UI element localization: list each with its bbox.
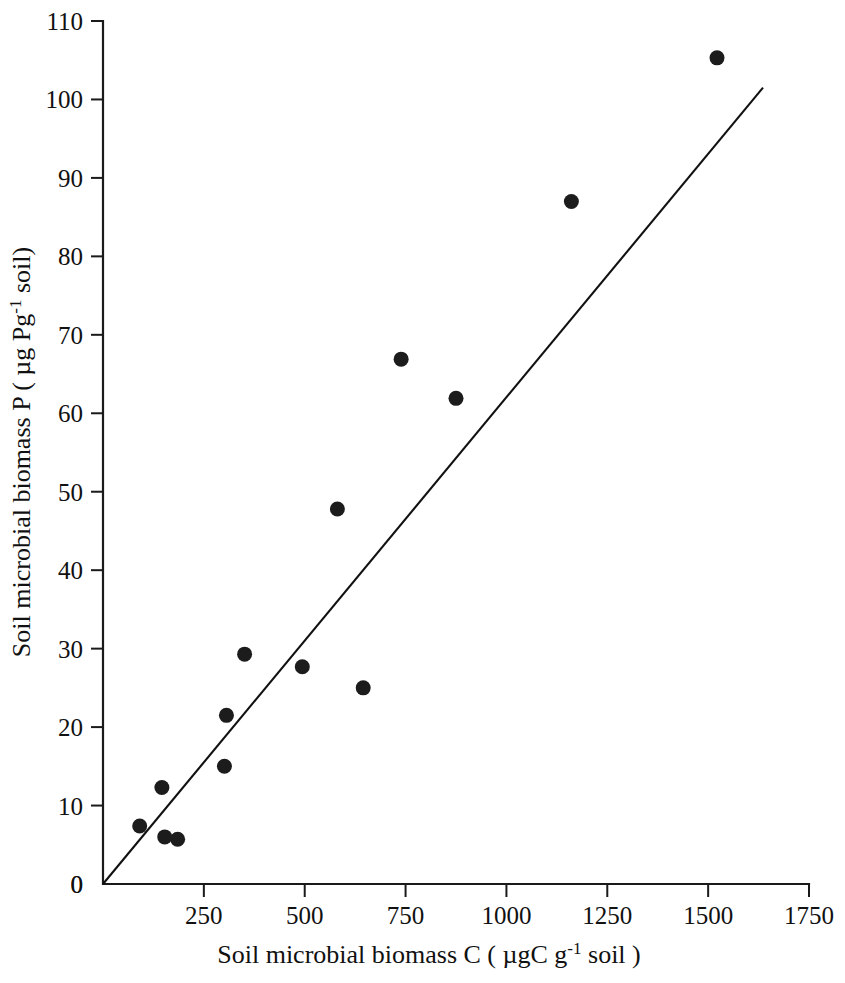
x-axis-title: Soil microbial biomass C ( µgC g-1 soil …: [217, 939, 641, 969]
x-tick-label-1750: 1750: [784, 902, 834, 929]
axis-title-text: Soil microbial biomass P ( µg Pg: [7, 314, 36, 657]
regression-line: [103, 88, 763, 884]
y-tick-label-10: 10: [58, 793, 83, 820]
scatter-plot: 0102030405060708090100110250500750100012…: [0, 0, 845, 983]
data-point-0: [132, 818, 147, 833]
data-point-4: [217, 759, 232, 774]
axis-spines: [103, 21, 809, 884]
data-point-3: [170, 832, 185, 847]
axis-title-text-tail: soil): [7, 247, 36, 300]
x-tick-label-500: 500: [286, 902, 324, 929]
x-tick-label-250: 250: [185, 902, 223, 929]
data-points-group: [132, 50, 724, 846]
axis-title-superscript: -1: [567, 939, 581, 958]
axis-title-superscript: -1: [6, 300, 25, 314]
data-point-1: [154, 780, 169, 795]
regression-line-group: [103, 88, 763, 884]
origin-tick-label-0: 0: [71, 871, 84, 898]
data-point-12: [564, 194, 579, 209]
x-tick-label-750: 750: [387, 902, 425, 929]
figure-container: 0102030405060708090100110250500750100012…: [0, 0, 845, 983]
y-tick-label-60: 60: [58, 400, 83, 427]
data-point-10: [394, 352, 409, 367]
y-axis-title: Soil microbial biomass P ( µg Pg-1 soil): [6, 247, 36, 657]
y-tick-label-70: 70: [58, 322, 83, 349]
y-tick-label-90: 90: [58, 165, 83, 192]
data-point-2: [157, 829, 172, 844]
data-point-11: [449, 391, 464, 406]
data-point-7: [295, 659, 310, 674]
y-tick-label-50: 50: [58, 479, 83, 506]
axis-title-text-tail: soil ): [582, 940, 641, 969]
data-point-9: [356, 680, 371, 695]
data-point-13: [710, 50, 725, 65]
axes-group: [91, 21, 809, 897]
axis-title-text: Soil microbial biomass C ( µgC g: [217, 940, 567, 969]
data-point-6: [237, 647, 252, 662]
y-tick-label-30: 30: [58, 636, 83, 663]
x-tick-label-1250: 1250: [582, 902, 632, 929]
data-point-8: [330, 501, 345, 516]
x-tick-label-1000: 1000: [481, 902, 531, 929]
y-tick-label-110: 110: [46, 8, 83, 35]
y-tick-label-100: 100: [46, 86, 84, 113]
data-point-5: [219, 708, 234, 723]
y-tick-label-40: 40: [58, 557, 83, 584]
y-tick-label-80: 80: [58, 243, 83, 270]
y-tick-label-20: 20: [58, 714, 83, 741]
x-tick-label-1500: 1500: [683, 902, 733, 929]
